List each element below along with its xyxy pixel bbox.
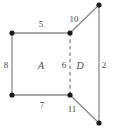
vertex-bottom-middle [67, 92, 72, 97]
vertex-top-middle [67, 30, 72, 35]
vertex-bottom-right [96, 120, 101, 125]
geometry-figure: 5 10 8 A 6 D 2 7 11 [0, 0, 115, 135]
edge-label-bottom-a: 7 [40, 101, 45, 110]
vertex-bottom-left [9, 92, 14, 97]
edge-label-left: 8 [4, 61, 9, 70]
edge-label-bottom-d: 11 [68, 105, 77, 114]
edge-label-top-a: 5 [39, 20, 44, 29]
edge-label-shared: 6 [62, 61, 67, 70]
vertex-top-left [9, 30, 14, 35]
region-label-d: D [76, 61, 83, 70]
region-label-a: A [38, 61, 44, 70]
edge-label-right: 2 [102, 61, 107, 70]
figure-canvas [0, 0, 115, 135]
vertex-top-right [96, 2, 101, 7]
edge-label-top-d: 10 [70, 15, 79, 24]
